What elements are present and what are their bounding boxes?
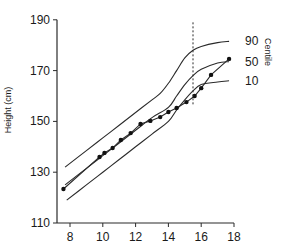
data-point <box>184 100 188 104</box>
x-tick-label: 18 <box>227 230 241 244</box>
data-point <box>128 131 132 135</box>
y-tick-label: 110 <box>31 216 50 230</box>
x-tick-label: 14 <box>162 230 176 244</box>
centile-90-curve <box>65 41 229 167</box>
data-point <box>61 187 65 191</box>
growth-chart: 11013015017019081012141618 Height (cm) C… <box>0 0 284 251</box>
data-point <box>174 106 178 110</box>
data-point <box>138 122 142 126</box>
data-point <box>110 146 114 150</box>
data-point <box>166 110 170 114</box>
centile-curves <box>65 41 229 200</box>
data-point <box>209 73 213 77</box>
data-point <box>199 86 203 90</box>
centile-10-curve <box>67 81 229 200</box>
data-point <box>102 151 106 155</box>
y-tick-label: 190 <box>30 13 50 27</box>
centile-90-label: 90 <box>245 34 259 48</box>
centile-10-label: 10 <box>245 74 259 88</box>
data-point <box>227 57 231 61</box>
centile-labels: 905010 <box>245 34 259 87</box>
centile-50-label: 50 <box>245 55 259 69</box>
patient-line <box>63 59 229 189</box>
x-tick-label: 12 <box>129 230 143 244</box>
x-tick-label: 16 <box>195 230 209 244</box>
data-point <box>119 138 123 142</box>
data-point <box>97 155 101 159</box>
patient-series <box>61 57 231 191</box>
data-point <box>158 115 162 119</box>
y-tick-label: 170 <box>30 64 50 78</box>
y-tick-label: 130 <box>30 165 50 179</box>
legend-title: Centile <box>263 38 273 66</box>
x-tick-label: 8 <box>67 230 74 244</box>
x-tick-label: 10 <box>96 230 110 244</box>
data-point <box>148 119 152 123</box>
y-axis-label: Height (cm) <box>3 87 13 134</box>
y-tick-label: 150 <box>30 114 50 128</box>
